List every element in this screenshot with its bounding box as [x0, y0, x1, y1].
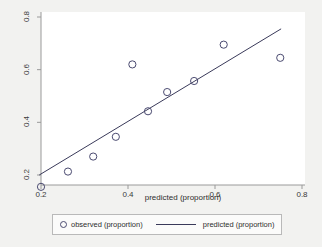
y-tick-label: 0.8: [22, 8, 31, 26]
plot-area: 0.20.40.60.8 0.20.40.60.8: [0, 0, 322, 247]
legend: observed (proportion) predicted (proport…: [52, 214, 282, 235]
y-axis-ticks: [37, 17, 41, 175]
y-tick-label: 0.2: [22, 166, 31, 184]
legend-item-predicted: predicted (proportion): [156, 220, 275, 229]
y-tick-label: 0.6: [22, 60, 31, 78]
chart-screenshot: 0.20.40.60.8 0.20.40.60.8 predicted (pro…: [0, 0, 322, 247]
y-tick-label: 0.4: [22, 113, 31, 131]
line-marker-icon: [156, 224, 196, 225]
legend-label-predicted: predicted (proportion): [203, 220, 275, 229]
legend-label-observed: observed (proportion): [71, 220, 143, 229]
chart-svg: [0, 0, 322, 247]
x-axis-title: predicted (proportion): [22, 193, 322, 202]
legend-item-observed: observed (proportion): [60, 220, 143, 229]
circle-marker-icon: [60, 221, 67, 228]
x-axis-ticks: [41, 185, 302, 189]
